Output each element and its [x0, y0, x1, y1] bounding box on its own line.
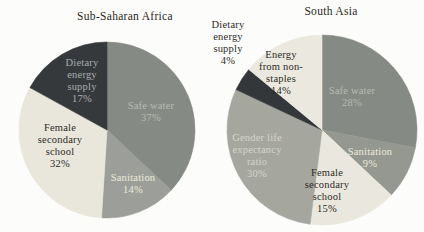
sub-saharan-africa-slice-label-female-secondary-school: Femalesecondaryschool32% — [38, 122, 82, 170]
south-asia-slice-label-gender-life-expectancy-ratio: Gender lifeexpectancyratio30% — [232, 132, 282, 180]
south-asia-slice-label-energy-from-non-staples: Energyfrom non-staples14% — [259, 49, 303, 97]
sub-saharan-africa-slice-label-dietary-energy-supply: Dietaryenergysupply17% — [66, 57, 99, 105]
south-asia-slice-label-safe-water: Safe water28% — [329, 85, 376, 109]
sub-saharan-africa-slice-label-sanitation: Sanitation14% — [111, 172, 156, 196]
chart-title-sub-saharan-africa: Sub-Saharan Africa — [77, 10, 173, 22]
figure-pie-charts: Sub-Saharan Africa South Asia Safe water… — [0, 0, 424, 232]
south-asia-slice-label-dietary-energy-supply: Dietaryenergysupply4% — [212, 19, 245, 67]
south-asia-slice-label-female-secondary-school: Femalesecondaryschool15% — [305, 167, 349, 215]
south-asia-slice-label-sanitation: Sanitation9% — [348, 146, 393, 170]
sub-saharan-africa-slice-label-safe-water: Safe water37% — [128, 100, 175, 124]
chart-title-south-asia: South Asia — [304, 5, 357, 17]
